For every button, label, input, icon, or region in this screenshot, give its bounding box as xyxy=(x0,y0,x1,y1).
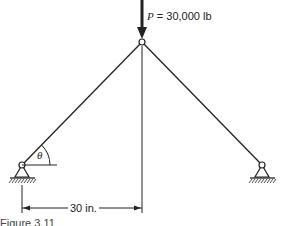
load-symbol: P xyxy=(147,10,154,22)
right-pin-support-icon xyxy=(249,162,276,183)
angle-label: θ xyxy=(37,150,42,161)
truss-diagram xyxy=(0,0,285,226)
angle-arc xyxy=(42,145,51,165)
left-member xyxy=(22,42,142,165)
apex-pin-icon xyxy=(139,39,145,45)
dimension-label: 30 in. xyxy=(68,203,99,214)
load-arrow-icon xyxy=(137,0,147,39)
load-value: = 30,000 lb xyxy=(154,10,212,22)
right-member xyxy=(142,42,262,165)
load-label: P = 30,000 lb xyxy=(147,11,212,22)
figure-caption: Figure 3.11 xyxy=(0,218,55,226)
